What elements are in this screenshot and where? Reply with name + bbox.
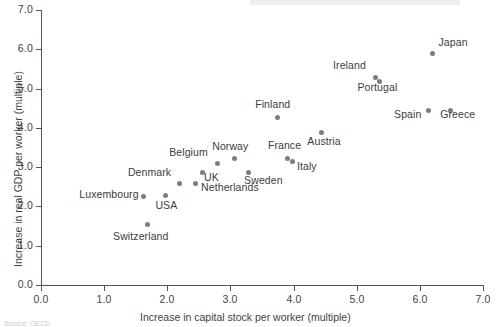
x-tick-mark xyxy=(104,286,105,291)
data-point-label: Luxembourg xyxy=(79,188,138,200)
x-tick-label: 4.0 xyxy=(274,293,314,305)
data-point-label: Norway xyxy=(212,140,248,152)
x-tick-mark xyxy=(230,286,231,291)
data-point-label: UK xyxy=(204,171,219,183)
x-tick-mark xyxy=(420,286,421,291)
x-tick-mark xyxy=(167,286,168,291)
data-point-label: Sweden xyxy=(244,174,283,186)
data-point xyxy=(430,51,435,56)
data-point-label: Japan xyxy=(438,36,467,48)
x-axis-title: Increase in capital stock per worker (mu… xyxy=(140,311,351,323)
x-tick-mark xyxy=(294,286,295,291)
x-tick-label: 7.0 xyxy=(463,293,498,305)
x-tick-label: 2.0 xyxy=(147,293,187,305)
data-point xyxy=(275,115,280,120)
data-point xyxy=(426,108,431,113)
data-point xyxy=(215,161,220,166)
data-point-label: Spain xyxy=(394,108,421,120)
data-point-label: USA xyxy=(155,199,177,211)
y-tick-mark xyxy=(36,10,41,11)
data-point xyxy=(141,194,146,199)
data-point xyxy=(232,156,237,161)
y-tick-label: 0.0 xyxy=(0,278,33,290)
x-tick-mark xyxy=(41,286,42,291)
data-point-label: Finland xyxy=(255,98,290,110)
y-tick-mark xyxy=(36,246,41,247)
data-point xyxy=(177,181,182,186)
data-point-label: Switzerland xyxy=(113,230,168,242)
data-point-label: France xyxy=(268,139,301,151)
x-tick-label: 0.0 xyxy=(21,293,61,305)
y-tick-label: 6.0 xyxy=(0,42,33,54)
x-tick-mark xyxy=(357,286,358,291)
data-point xyxy=(290,159,295,164)
data-point-label: Denmark xyxy=(128,166,171,178)
data-point xyxy=(145,222,150,227)
y-axis-title: Increase in real GDP per worker (multipl… xyxy=(12,71,24,267)
y-tick-mark xyxy=(36,167,41,168)
y-axis-line xyxy=(41,10,42,286)
y-tick-mark xyxy=(36,89,41,90)
data-point-label: Greece xyxy=(440,108,475,120)
data-point-label: Italy xyxy=(297,160,317,172)
data-point-label: Portugal xyxy=(357,81,397,93)
scatter-chart: 0.01.02.03.04.05.06.07.0 0.01.02.03.04.0… xyxy=(0,0,498,327)
footer-source-sliver: Source: OECD xyxy=(4,320,50,327)
data-point-label: Belgium xyxy=(169,146,208,158)
data-point-label: Austria xyxy=(307,135,340,147)
data-point-label: Ireland xyxy=(333,59,366,71)
x-tick-label: 6.0 xyxy=(400,293,440,305)
y-tick-mark xyxy=(36,128,41,129)
data-point xyxy=(163,193,168,198)
x-tick-label: 1.0 xyxy=(84,293,124,305)
y-tick-mark xyxy=(36,49,41,50)
x-tick-label: 3.0 xyxy=(210,293,250,305)
x-axis-line xyxy=(41,285,484,286)
x-tick-label: 5.0 xyxy=(337,293,377,305)
data-point xyxy=(193,181,198,186)
y-tick-label: 7.0 xyxy=(0,3,33,15)
y-tick-mark xyxy=(36,206,41,207)
x-tick-mark xyxy=(483,286,484,291)
scan-artifact xyxy=(250,0,460,5)
